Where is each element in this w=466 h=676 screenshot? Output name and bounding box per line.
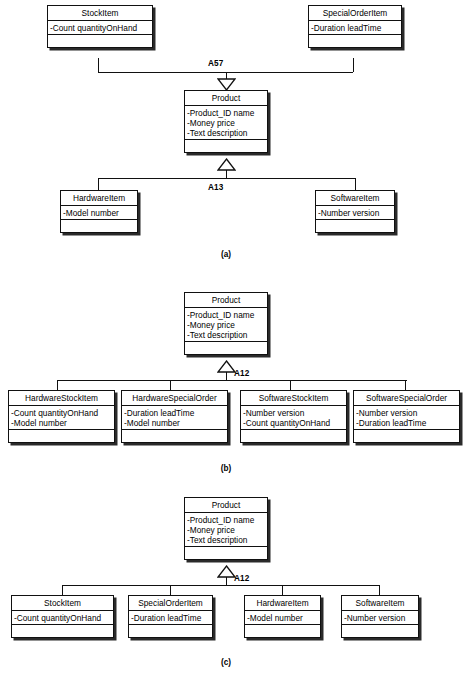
class-box-softwareitem-c[interactable]: SoftwareItem -Number version — [341, 595, 419, 638]
class-box-hardwareitem-a[interactable]: HardwareItem -Model number — [60, 190, 138, 233]
class-name-hardwareitem-c: HardwareItem — [245, 596, 320, 611]
class-operations-softwareitem-c — [342, 625, 418, 637]
class-attribute: -Text description — [187, 535, 267, 545]
class-box-stockitem-c[interactable]: StockItem -Count quantityOnHand — [11, 595, 114, 638]
connector-stem-hardwarestockitem-b — [57, 380, 58, 390]
class-box-softwarespecialorder-b[interactable]: SoftwareSpecialOrder -Number version -Du… — [353, 390, 460, 443]
class-attribute: -Model number — [247, 613, 320, 623]
class-operations-hardwareitem-a — [61, 220, 137, 232]
class-attributes-hardwarespecialorder-b: -Duration leadTime -Model number — [122, 406, 227, 430]
figure-caption-c: (c) — [196, 658, 256, 668]
class-box-hardwarespecialorder-b[interactable]: HardwareSpecialOrder -Duration leadTime … — [121, 390, 228, 443]
class-name-softwarespecialorder-b: SoftwareSpecialOrder — [354, 391, 459, 406]
class-operations-hardwarestockitem-b — [9, 430, 114, 442]
class-attribute: -Duration leadTime — [124, 408, 227, 418]
class-name-product-a: Product — [185, 91, 267, 106]
class-attributes-product-b: -Product_ID name -Money price -Text desc… — [185, 308, 267, 342]
class-attribute: -Number version — [344, 613, 418, 623]
class-attribute: -Number version — [318, 208, 394, 218]
class-operations-softwareitem-a — [316, 220, 394, 232]
class-attribute: -Number version — [356, 408, 459, 418]
class-attribute: -Product_ID name — [187, 515, 267, 525]
class-name-stockitem-c: StockItem — [12, 596, 113, 611]
class-box-product-c[interactable]: Product -Product_ID name -Money price -T… — [184, 497, 268, 560]
connector-bus-a13 — [98, 178, 356, 179]
connector-drop-a13 — [226, 170, 227, 178]
diagram-canvas: StockItem -Count quantityOnHand SpecialO… — [0, 0, 466, 676]
class-box-hardwarestockitem-b[interactable]: HardwareStockItem -Count quantityOnHand … — [8, 390, 115, 443]
class-operations-specialorderitem-c — [129, 625, 212, 637]
class-name-stockitem-a: StockItem — [48, 6, 152, 21]
class-operations-hardwarespecialorder-b — [122, 430, 227, 442]
class-attributes-softwareitem-c: -Number version — [342, 611, 418, 625]
class-attribute: -Money price — [187, 118, 267, 128]
class-attributes-stockitem-a: -Count quantityOnHand — [48, 21, 152, 35]
connector-bus-b-a12 — [57, 380, 407, 381]
connector-stem-hardwareitem-c — [282, 585, 283, 595]
class-name-product-c: Product — [185, 498, 267, 513]
connector-stem-specialorderitem-a — [353, 58, 354, 72]
class-box-stockitem-a[interactable]: StockItem -Count quantityOnHand — [47, 5, 153, 48]
class-attributes-specialorderitem-c: -Duration leadTime — [129, 611, 212, 625]
class-operations-hardwareitem-c — [245, 625, 320, 637]
connector-stem-softwarestockitem-b — [290, 380, 291, 390]
class-box-specialorderitem-a[interactable]: SpecialOrderItem -Duration leadTime — [308, 5, 402, 48]
association-label-b-a12: A12 — [234, 369, 249, 378]
class-name-specialorderitem-c: SpecialOrderItem — [129, 596, 212, 611]
class-name-hardwarestockitem-b: HardwareStockItem — [9, 391, 114, 406]
class-box-product-a[interactable]: Product -Product_ID name -Money price -T… — [184, 90, 268, 153]
class-attribute: -Product_ID name — [187, 310, 267, 320]
class-attributes-softwareitem-a: -Number version — [316, 206, 394, 220]
generalization-triangle-a13 — [217, 158, 236, 171]
association-label-c-a12: A12 — [234, 574, 249, 583]
class-attribute: -Model number — [63, 208, 137, 218]
class-attribute: -Money price — [187, 525, 267, 535]
class-name-product-b: Product — [185, 293, 267, 308]
connector-bus-c-a12 — [62, 585, 380, 586]
class-attribute: -Money price — [187, 320, 267, 330]
association-label-a57: A57 — [208, 59, 223, 68]
figure-caption-a: (a) — [196, 250, 256, 260]
figure-caption-b: (b) — [196, 464, 256, 474]
class-attribute: -Model number — [124, 418, 227, 428]
class-operations-specialorderitem-a — [309, 35, 401, 47]
class-operations-product-b — [185, 342, 267, 354]
class-box-softwareitem-a[interactable]: SoftwareItem -Number version — [315, 190, 395, 233]
class-attributes-specialorderitem-a: -Duration leadTime — [309, 21, 401, 35]
class-name-specialorderitem-a: SpecialOrderItem — [309, 6, 401, 21]
class-attributes-softwarespecialorder-b: -Number version -Duration leadTime — [354, 406, 459, 430]
class-attribute: -Text description — [187, 128, 267, 138]
class-name-softwareitem-c: SoftwareItem — [342, 596, 418, 611]
class-box-product-b[interactable]: Product -Product_ID name -Money price -T… — [184, 292, 268, 355]
class-attributes-product-a: -Product_ID name -Money price -Text desc… — [185, 106, 267, 140]
connector-stem-hardwarespecialorder-b — [170, 380, 171, 390]
class-box-hardwareitem-c[interactable]: HardwareItem -Model number — [244, 595, 321, 638]
class-operations-product-c — [185, 547, 267, 559]
class-box-softwarestockitem-b[interactable]: SoftwareStockItem -Number version -Count… — [240, 390, 347, 443]
class-box-specialorderitem-c[interactable]: SpecialOrderItem -Duration leadTime — [128, 595, 213, 638]
class-attribute: -Text description — [187, 330, 267, 340]
class-attribute: -Duration leadTime — [356, 418, 459, 428]
class-operations-stockitem-a — [48, 35, 152, 47]
class-name-hardwarespecialorder-b: HardwareSpecialOrder — [122, 391, 227, 406]
connector-stem-softwareitem-c — [379, 585, 380, 595]
class-attribute: -Number version — [243, 408, 346, 418]
class-operations-softwarestockitem-b — [241, 430, 346, 442]
class-attribute: -Count quantityOnHand — [243, 418, 346, 428]
class-attributes-hardwarestockitem-b: -Count quantityOnHand -Model number — [9, 406, 114, 430]
class-attributes-softwarestockitem-b: -Number version -Count quantityOnHand — [241, 406, 346, 430]
class-attribute: -Model number — [11, 418, 114, 428]
class-attributes-product-c: -Product_ID name -Money price -Text desc… — [185, 513, 267, 547]
connector-stem-stockitem-a — [98, 58, 99, 72]
class-attributes-stockitem-c: -Count quantityOnHand — [12, 611, 113, 625]
association-label-a13: A13 — [208, 183, 223, 192]
class-operations-stockitem-c — [12, 625, 113, 637]
class-attribute: -Duration leadTime — [131, 613, 212, 623]
connector-drop-b-a12 — [226, 372, 227, 380]
class-operations-product-a — [185, 140, 267, 152]
class-name-softwarestockitem-b: SoftwareStockItem — [241, 391, 346, 406]
connector-drop-c-a12 — [226, 577, 227, 585]
class-name-softwareitem-a: SoftwareItem — [316, 191, 394, 206]
class-attributes-hardwareitem-a: -Model number — [61, 206, 137, 220]
connector-stem-hardwareitem-a — [98, 178, 99, 190]
